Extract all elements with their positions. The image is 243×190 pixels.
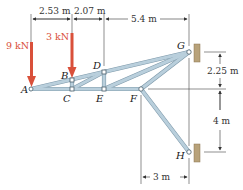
- joint-h: [187, 150, 191, 154]
- truss-members: [31, 52, 189, 152]
- dim-2-53m: 2.53 m: [39, 6, 71, 16]
- label-b: B: [60, 70, 68, 81]
- joint-f: [139, 87, 143, 91]
- dimension-arrows: [33, 19, 220, 177]
- joint-b: [70, 78, 74, 82]
- load-9kn-label: 9 kN: [6, 40, 29, 51]
- label-e: E: [95, 93, 104, 104]
- wall-support-h: [194, 144, 200, 162]
- dim-3m: 3 m: [153, 172, 171, 182]
- wall-support-g: [194, 44, 200, 62]
- joint-c: [70, 87, 74, 91]
- label-h: H: [175, 150, 185, 161]
- dim-4m: 4 m: [213, 116, 231, 126]
- label-f: F: [129, 93, 138, 104]
- truss-diagram: 2.53 m 2.07 m 5.4 m 2.25 m 4 m 3 m: [0, 0, 243, 190]
- joint-g: [187, 50, 191, 54]
- joint-e: [102, 87, 106, 91]
- label-d: D: [92, 60, 101, 71]
- dim-2-07m: 2.07 m: [74, 6, 106, 16]
- joint-a: [29, 87, 33, 91]
- label-g: G: [177, 40, 185, 51]
- label-a: A: [20, 84, 28, 95]
- joints: [29, 50, 191, 154]
- label-c: C: [63, 93, 71, 104]
- joint-d: [102, 70, 106, 74]
- dim-5-4m: 5.4 m: [131, 14, 157, 24]
- dim-2-25m: 2.25 m: [207, 66, 239, 76]
- load-3kn-label: 3 kN: [46, 31, 69, 42]
